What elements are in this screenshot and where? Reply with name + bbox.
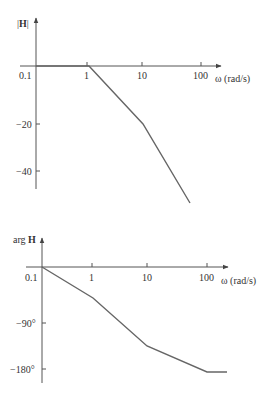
xtick-label-100: 100 — [193, 70, 208, 81]
magnitude-x-label: ω (rad/s) — [215, 73, 250, 85]
magnitude-curve — [36, 66, 190, 203]
ytick-label-minus20: −20 — [16, 119, 32, 130]
xtick-label-0.1: 0.1 — [19, 70, 32, 81]
phase-xtick-label-100: 100 — [199, 272, 214, 283]
magnitude-y-label: |H| — [17, 18, 29, 29]
magnitude-plot: |H| 0.1 1 10 100 ω (rad/s) −20 −40 — [16, 18, 250, 203]
phase-xtick-label-1: 1 — [89, 272, 94, 283]
xtick-label-1: 1 — [84, 70, 89, 81]
phase-xtick-label-0.1: 0.1 — [25, 272, 38, 283]
phase-x-label: ω (rad/s) — [221, 275, 256, 287]
ytick-label-minus40: −40 — [16, 166, 32, 177]
bode-plot: |H| 0.1 1 10 100 ω (rad/s) −20 −40 arg H… — [0, 0, 266, 399]
ytick-label-minus180: −180° — [10, 364, 35, 375]
phase-plot: arg H 0.1 1 10 100 ω (rad/s) −90° −180° — [10, 234, 256, 383]
ytick-label-minus90: −90° — [16, 318, 36, 329]
xtick-label-10: 10 — [137, 70, 147, 81]
phase-xtick-label-10: 10 — [142, 272, 152, 283]
phase-y-label: arg H — [13, 234, 36, 245]
